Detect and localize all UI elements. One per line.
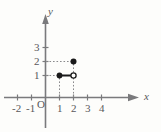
y-tick-label-2: 2: [34, 56, 40, 67]
coordinate-plane-svg: [0, 0, 161, 132]
point-2-1-open-marker: [71, 73, 76, 78]
point-1-1-closed-marker: [57, 73, 63, 79]
x-axis-label: x: [144, 91, 149, 102]
graph-figure: y x O -2 -1 1 2 3 4 1 2 3: [0, 0, 161, 132]
x-tick-label-2: 2: [71, 103, 77, 114]
y-axis-label: y: [48, 6, 53, 17]
guide-lines: [46, 62, 74, 98]
y-tick-label-1: 1: [34, 70, 40, 81]
x-tick-label-4: 4: [99, 103, 105, 114]
x-tick-label--2: -2: [12, 103, 21, 114]
y-tick-label-3: 3: [34, 42, 40, 53]
x-tick-label-1: 1: [57, 103, 63, 114]
origin-label: O: [37, 99, 45, 110]
x-axis-arrowhead: [128, 94, 139, 101]
x-tick-label-3: 3: [85, 103, 91, 114]
point-2-2-closed-marker: [71, 59, 77, 65]
x-tick-label--1: -1: [26, 103, 35, 114]
